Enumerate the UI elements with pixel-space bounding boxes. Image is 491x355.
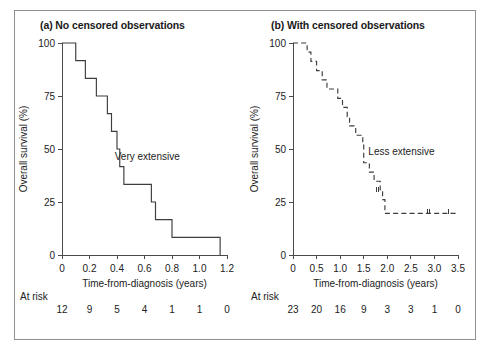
at-risk-count: 1 [432,304,438,315]
x-axis-tick-label: 0.2 [83,263,97,274]
x-axis-tick-label: 0 [290,263,296,274]
at-risk-count: 9 [87,304,93,315]
panel-b-title: (b) With censored observations [271,19,425,31]
panel-a-title: (a) No censored observations [40,19,185,31]
survival-figure: (a) No censored observations 02550751000… [0,0,491,355]
y-axis-tick-label: 100 [38,38,55,49]
panel-a: (a) No censored observations 02550751000… [14,10,245,340]
at-risk-count: 0 [455,304,461,315]
x-axis-tick-label: 3.5 [451,263,465,274]
at-risk-count: 4 [142,304,148,315]
y-axis-tick-label: 75 [44,91,56,102]
x-axis-tick-label: 0.4 [110,263,124,274]
x-axis-tick-label: 0.5 [310,263,324,274]
y-axis-tick-label: 0 [49,250,55,261]
x-axis-title: Time-from-diagnosis (years) [313,278,438,289]
at-risk-count: 23 [287,304,299,315]
x-axis-tick-label: 3.0 [427,263,441,274]
group-annotation-label: Very extensive [115,151,180,162]
x-axis-tick-label: 2.5 [404,263,418,274]
km-survival-curve [293,43,458,213]
at-risk-count: 1 [169,304,175,315]
y-axis-title: Overall survival (%) [249,106,260,193]
x-axis-tick-label: 2.0 [380,263,394,274]
x-axis-tick-label: 1.2 [220,263,234,274]
panels-container: (a) No censored observations 02550751000… [0,0,491,355]
y-axis-tick-label: 0 [280,250,286,261]
y-axis-tick-label: 75 [275,91,287,102]
y-axis-title: Overall survival (%) [18,106,29,193]
x-axis-tick-label: 1.5 [357,263,371,274]
y-axis-tick-label: 25 [44,197,56,208]
at-risk-count: 12 [56,304,68,315]
x-axis-tick-label: 0.6 [138,263,152,274]
y-axis-tick-label: 25 [275,197,287,208]
at-risk-count: 3 [385,304,391,315]
at-risk-count: 16 [335,304,347,315]
y-axis-tick-label: 50 [275,144,287,155]
at-risk-count: 5 [114,304,120,315]
at-risk-count: 20 [311,304,323,315]
at-risk-label: At risk [251,291,280,302]
y-axis-tick-label: 50 [44,144,56,155]
x-axis-tick-label: 0 [59,263,65,274]
panel-a-plot: 025507510000.20.40.60.81.01.2Time-from-d… [14,10,245,340]
group-annotation-label: Less extensive [368,146,435,157]
x-axis-tick-label: 0.8 [165,263,179,274]
at-risk-count: 0 [224,304,230,315]
at-risk-label: At risk [20,291,49,302]
at-risk-count: 1 [197,304,203,315]
x-axis-title: Time-from-diagnosis (years) [82,278,207,289]
at-risk-count: 3 [408,304,414,315]
x-axis-tick-label: 1.0 [193,263,207,274]
km-survival-curve [62,43,220,255]
panel-b-plot: 025507510000.51.01.52.02.53.03.5Time-fro… [245,10,476,340]
x-axis-tick-label: 1.0 [333,263,347,274]
at-risk-count: 9 [361,304,367,315]
y-axis-tick-label: 100 [269,38,286,49]
panel-b: (b) With censored observations 025507510… [245,10,476,340]
